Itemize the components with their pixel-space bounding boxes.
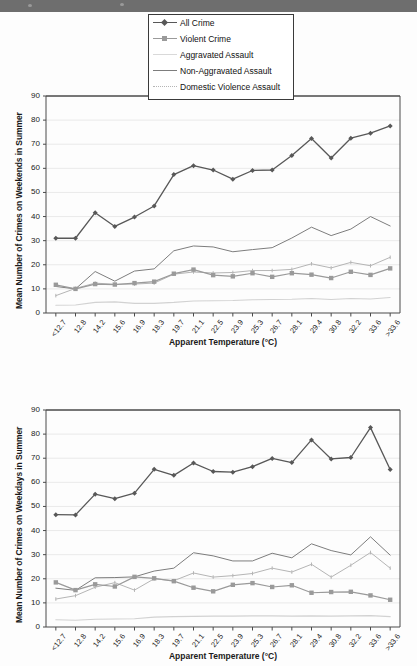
- data-point-marker: [211, 469, 216, 474]
- y-tick-label: 80: [18, 430, 40, 438]
- data-point-marker: [191, 267, 195, 271]
- legend-label: All Crime: [178, 18, 214, 28]
- y-tick-label: 50: [18, 188, 40, 196]
- data-point-marker: [152, 279, 156, 283]
- plot-area-weekdays: [0, 352, 417, 666]
- data-point-marker: [112, 496, 117, 501]
- y-tick-label: 90: [18, 406, 40, 414]
- legend-label: Aggravated Assault: [178, 50, 253, 60]
- data-point-marker: [290, 271, 294, 275]
- y-tick-label: 60: [18, 164, 40, 172]
- data-point-marker: [349, 590, 353, 594]
- data-point-marker: [368, 131, 373, 136]
- topbar-speck: [120, 3, 124, 6]
- data-point-marker: [230, 177, 235, 182]
- legend-key-icon: [152, 33, 178, 45]
- legend-label: Domestic Violence Assault: [178, 82, 280, 92]
- y-tick-label: 60: [18, 478, 40, 486]
- data-point-marker: [250, 168, 255, 173]
- series-line-violent-crime: [56, 268, 390, 289]
- series-line-aggravated-assault: [56, 298, 390, 306]
- data-point-marker: [53, 236, 58, 241]
- y-tick-label: 0: [18, 623, 40, 631]
- data-point-marker: [329, 276, 333, 280]
- data-point-marker: [250, 271, 254, 275]
- data-point-marker: [368, 273, 372, 277]
- data-point-marker: [93, 582, 97, 586]
- data-point-marker: [113, 282, 117, 286]
- series-line-all-crime: [56, 428, 390, 515]
- data-point-marker: [250, 581, 254, 585]
- y-tick-label: 70: [18, 140, 40, 148]
- legend-item-all-crime: All Crime: [149, 15, 293, 31]
- legend-key-icon: [152, 17, 178, 29]
- series-line-aggravated-assault: [56, 616, 390, 621]
- data-point-marker: [73, 588, 77, 592]
- legend-key-icon: [152, 49, 178, 61]
- y-tick-label: 70: [18, 454, 40, 462]
- data-point-marker: [250, 464, 255, 469]
- data-point-marker: [329, 590, 333, 594]
- data-point-marker: [270, 585, 274, 589]
- data-point-marker: [349, 270, 353, 274]
- chart-weekdays: Mean Number of Crimes on Weekdays in Sum…: [0, 352, 417, 666]
- data-point-marker: [309, 591, 313, 595]
- data-point-marker: [270, 275, 274, 279]
- legend-item-aggravated-assault: Aggravated Assault: [149, 47, 293, 63]
- legend-item-domestic-violence-assault: Domestic Violence Assault: [149, 79, 293, 95]
- legend-label: Non-Aggravated Assault: [178, 66, 272, 76]
- data-point-marker: [368, 593, 372, 597]
- data-point-marker: [93, 282, 97, 286]
- data-point-marker: [211, 589, 215, 593]
- window-topbar: [0, 0, 417, 12]
- data-point-marker: [54, 580, 58, 584]
- legend-key-icon: [152, 81, 178, 93]
- data-point-marker: [152, 576, 156, 580]
- data-point-marker: [73, 287, 77, 291]
- data-point-marker: [132, 215, 137, 220]
- data-point-marker: [230, 470, 235, 475]
- y-tick-label: 40: [18, 527, 40, 535]
- data-point-marker: [54, 283, 58, 287]
- y-tick-label: 30: [18, 237, 40, 245]
- series-line-all-crime: [56, 126, 390, 238]
- data-point-marker: [191, 585, 195, 589]
- data-point-marker: [388, 467, 393, 472]
- data-point-marker: [290, 583, 294, 587]
- series-line-non-aggravated-assault: [56, 217, 390, 289]
- data-point-marker: [211, 273, 215, 277]
- legend-label: Violent Crime: [178, 34, 231, 44]
- data-point-marker: [270, 456, 275, 461]
- y-tick-label: 50: [18, 502, 40, 510]
- y-tick-label: 0: [18, 309, 40, 317]
- data-point-marker: [231, 274, 235, 278]
- y-tick-label: 30: [18, 551, 40, 559]
- series-line-violent-crime: [56, 577, 390, 600]
- data-point-marker: [132, 575, 136, 579]
- data-point-marker: [191, 163, 196, 168]
- y-tick-label: 10: [18, 599, 40, 607]
- y-tick-label: 80: [18, 116, 40, 124]
- y-tick-label: 20: [18, 575, 40, 583]
- document-page: Mean Number of Crimes on Weekends in Sum…: [0, 12, 417, 666]
- topbar-speck: [28, 4, 32, 7]
- data-point-marker: [309, 272, 313, 276]
- data-point-marker: [172, 579, 176, 583]
- data-point-marker: [172, 271, 176, 275]
- data-point-marker: [388, 598, 392, 602]
- legend-item-violent-crime: Violent Crime: [149, 31, 293, 47]
- data-point-marker: [231, 583, 235, 587]
- data-point-marker: [53, 512, 58, 517]
- chart-weekends: Mean Number of Crimes on Weekends in Sum…: [0, 12, 417, 352]
- legend-item-non-aggravated-assault: Non-Aggravated Assault: [149, 63, 293, 79]
- y-tick-label: 40: [18, 213, 40, 221]
- data-point-marker: [113, 584, 117, 588]
- data-point-marker: [388, 123, 393, 128]
- chart-legend: All CrimeViolent CrimeAggravated Assault…: [148, 14, 294, 100]
- y-tick-label: 10: [18, 285, 40, 293]
- data-point-marker: [132, 281, 136, 285]
- y-tick-label: 90: [18, 92, 40, 100]
- y-tick-label: 20: [18, 261, 40, 269]
- data-point-marker: [388, 266, 392, 270]
- legend-key-icon: [152, 65, 178, 77]
